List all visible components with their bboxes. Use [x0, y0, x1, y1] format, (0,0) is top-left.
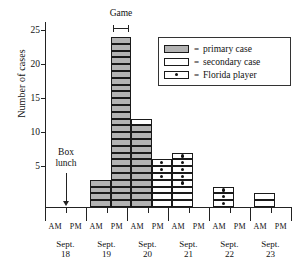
legend-swatch-secondary-icon [164, 58, 189, 66]
bar-cell [111, 173, 132, 180]
annotation-box-lunch-arrow-icon [58, 173, 74, 206]
bar-sept19-am [90, 180, 111, 207]
x-day-number: 20 [127, 249, 168, 259]
bar-cell [131, 159, 152, 166]
x-period-sept22-pm: PM [230, 223, 251, 231]
y-tick-25: 25 [18, 26, 40, 36]
bar-sept20-am [131, 119, 152, 207]
bar-cell [90, 193, 111, 200]
bar-cell [152, 187, 173, 194]
bar-cell-florida [152, 166, 173, 173]
bar-cell [111, 71, 132, 78]
x-day-sept23: Sept. 23 [250, 239, 291, 260]
y-tickmark-10 [41, 132, 46, 133]
x-group-sep [209, 207, 210, 221]
x-day-sept20: Sept. 20 [127, 239, 168, 260]
annotation-game-bracket-icon [113, 25, 129, 32]
bar-cell [131, 173, 152, 180]
y-tick-15: 15 [18, 94, 40, 104]
x-group-sep [291, 207, 292, 221]
legend-equals-sign: = [194, 57, 199, 67]
annotation-box-lunch-line2: lunch [48, 158, 84, 169]
y-tickmark-15 [41, 98, 46, 99]
legend-item-florida-player: = Florida player [164, 68, 285, 81]
bar-cell [111, 200, 132, 207]
x-period-sept21-pm: PM [189, 223, 210, 231]
x-day-sept18: Sept. 18 [45, 239, 86, 260]
bar-sept20-pm [152, 159, 173, 207]
bar-cell [111, 119, 132, 126]
bar-cell [111, 91, 132, 98]
bar-cell [131, 119, 152, 126]
x-tickmark [66, 207, 67, 213]
x-tickmark [107, 207, 108, 213]
bar-cell [111, 180, 132, 187]
bar-cell [111, 125, 132, 132]
bar-cell [111, 51, 132, 58]
bar-cell [152, 193, 173, 200]
x-day-number: 22 [209, 249, 250, 259]
x-tickmark [148, 207, 149, 213]
bar-cell [90, 180, 111, 187]
x-period-sept20-pm: PM [148, 223, 169, 231]
bar-cell-florida [172, 153, 193, 160]
x-period-sept18-pm: PM [66, 223, 87, 231]
bar-cell [131, 139, 152, 146]
bar-cell [254, 193, 275, 200]
x-day-number: 18 [45, 249, 86, 259]
legend-item-secondary-case: = secondary case [164, 55, 285, 68]
y-tick-20: 20 [18, 60, 40, 70]
x-group-sep [45, 207, 46, 221]
bar-cell [131, 187, 152, 194]
bar-cell [131, 200, 152, 207]
legend-swatch-primary-icon [164, 45, 189, 53]
x-period-sept19-pm: PM [107, 223, 128, 231]
x-group-sep [168, 207, 169, 221]
x-tickmark [271, 207, 272, 213]
bar-cell-florida [152, 173, 173, 180]
x-day-number: 21 [168, 249, 209, 259]
bar-cell [111, 78, 132, 85]
bar-cell [111, 132, 132, 139]
x-period-sept23-am: AM [250, 223, 271, 231]
x-period-sept23-pm: PM [271, 223, 292, 231]
x-day-month: Sept. [45, 239, 86, 249]
bar-cell [111, 187, 132, 194]
x-period-sept21-am: AM [168, 223, 189, 231]
bar-cell [111, 112, 132, 119]
bar-cell [131, 146, 152, 153]
bar-cell [111, 153, 132, 160]
bar-cell [111, 37, 132, 44]
bar-cell [111, 98, 132, 105]
bar-sept22-am [213, 187, 234, 207]
x-day-sept19: Sept. 19 [86, 239, 127, 260]
y-tick-10: 10 [18, 128, 40, 138]
legend-label-primary: primary case [203, 44, 252, 54]
bar-cell [111, 139, 132, 146]
bar-cell [111, 44, 132, 51]
bar-cell [111, 85, 132, 92]
bar-sept23-am [254, 193, 275, 207]
x-tickmark [189, 207, 190, 213]
bar-cell [90, 200, 111, 207]
bar-cell [152, 180, 173, 187]
bar-cell-florida [172, 166, 193, 173]
y-tickmark-20 [41, 64, 46, 65]
y-tickmark-25 [41, 30, 46, 31]
legend-swatch-florida-icon [164, 71, 189, 79]
bar-cell [254, 200, 275, 207]
legend-label-secondary: secondary case [203, 57, 260, 67]
bar-cell [111, 105, 132, 112]
x-day-sept21: Sept. 21 [168, 239, 209, 260]
bar-cell [152, 200, 173, 207]
x-period-sept22-am: AM [209, 223, 230, 231]
epidemic-curve-chart: Number of cases 25 20 15 10 5 [0, 0, 304, 270]
legend-equals-sign: = [194, 70, 199, 80]
x-group-sep [86, 207, 87, 221]
x-day-sept22: Sept. 22 [209, 239, 250, 260]
bar-cell-florida [213, 187, 234, 194]
bar-cell [172, 193, 193, 200]
y-tickmark-5 [41, 166, 46, 167]
x-tickmark [230, 207, 231, 213]
bar-cell [131, 125, 152, 132]
